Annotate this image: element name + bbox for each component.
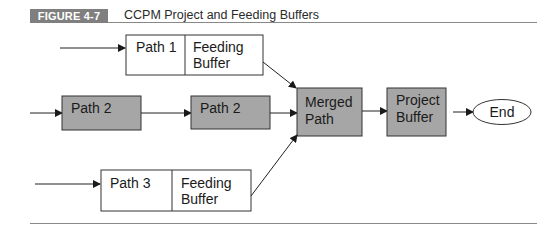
path1-buffer-line2: Buffer: [193, 55, 230, 71]
path3-buffer-line2: Buffer: [181, 191, 218, 207]
path2a-node: Path 2: [62, 96, 141, 130]
end-label: End: [490, 104, 515, 120]
path1-label: Path 1: [136, 39, 177, 55]
path3-node: Path 3 Feeding Buffer: [101, 170, 251, 211]
merged-path-node: Merged Path: [297, 88, 362, 136]
ccpm-diagram: Path 1 Feeding Buffer Path 2 Path 2 Merg…: [0, 0, 558, 230]
merged-line2: Path: [305, 111, 334, 127]
path3-label: Path 3: [110, 175, 151, 191]
path2b-label: Path 2: [200, 100, 241, 116]
path1-buffer-line1: Feeding: [193, 39, 244, 55]
merged-line1: Merged: [305, 94, 352, 110]
project-buffer-line2: Buffer: [396, 109, 433, 125]
path2b-node: Path 2: [191, 96, 270, 129]
arrow-path3-to-merged: [251, 135, 297, 196]
path3-buffer-line1: Feeding: [181, 175, 232, 191]
end-node: End: [473, 100, 531, 125]
path2a-label: Path 2: [71, 100, 112, 116]
project-buffer-line1: Project: [396, 92, 440, 108]
arrow-path1-to-merged: [263, 62, 296, 88]
project-buffer-node: Project Buffer: [387, 88, 446, 136]
path1-node: Path 1 Feeding Buffer: [126, 35, 263, 75]
